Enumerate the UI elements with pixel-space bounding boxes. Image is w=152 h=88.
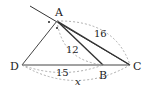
- segment-ad: [22, 21, 57, 65]
- length-dc: x: [75, 76, 81, 87]
- length-ab: 12: [66, 44, 79, 55]
- label-a: A: [54, 6, 64, 19]
- angle-mark-dot: [56, 27, 58, 29]
- label-b: B: [99, 69, 107, 82]
- length-db: 15: [56, 67, 69, 78]
- geometry-figure: A D B C 16 12 15 x: [0, 0, 152, 88]
- triangle-diagram: A D B C 16 12 15 x: [0, 0, 152, 88]
- angle-mark-dot: [48, 21, 50, 23]
- label-c: C: [133, 60, 141, 73]
- length-ac: 16: [94, 28, 107, 39]
- label-d: D: [10, 60, 19, 73]
